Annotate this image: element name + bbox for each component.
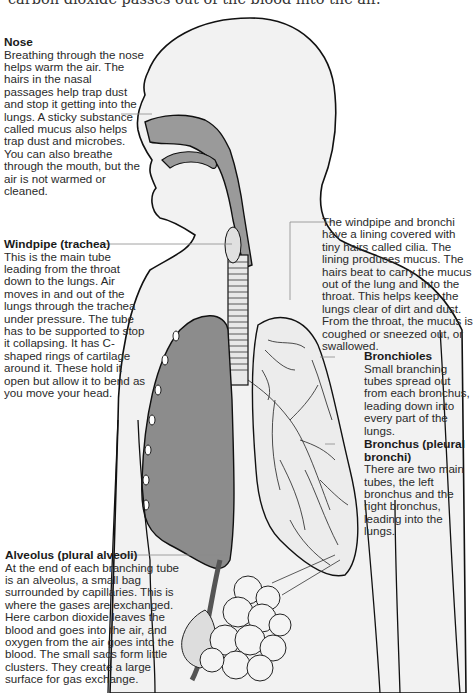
label-windpipe-text: This is the main tube leading from the t… — [4, 251, 150, 400]
label-windpipe-title: Windpipe (trachea) — [4, 238, 150, 251]
label-cilia: The windpipe and bronchi have a lining c… — [322, 216, 476, 352]
label-cilia-text: The windpipe and bronchi have a lining c… — [322, 216, 476, 352]
label-windpipe: Windpipe (trachea) This is the main tube… — [4, 238, 150, 399]
label-alveolus-text: At the end of each branching tube is an … — [5, 562, 183, 686]
label-bronchus-text: There are two main tubes, the left bronc… — [364, 463, 476, 537]
label-bronchioles-title: Bronchioles — [364, 350, 476, 363]
label-alveolus: Alveolus (plural alveoli) At the end of … — [5, 549, 183, 686]
label-nose-title: Nose — [4, 36, 144, 49]
label-nose: Nose Breathing through the nose helps wa… — [4, 36, 144, 197]
label-bronchus: Bronchus (pleural bronchi) There are two… — [364, 438, 476, 538]
label-alveolus-title: Alveolus (plural alveoli) — [5, 549, 183, 562]
label-bronchus-title: Bronchus (pleural bronchi) — [364, 438, 476, 463]
label-bronchioles-text: Small branching tubes spread out from ea… — [364, 363, 476, 437]
label-bronchioles: Bronchioles Small branching tubes spread… — [364, 350, 476, 437]
label-nose-text: Breathing through the nose helps warm th… — [4, 49, 144, 198]
